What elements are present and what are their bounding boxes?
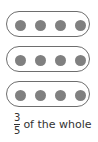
dot (15, 90, 26, 101)
dot (35, 20, 46, 31)
denominator: 5 (14, 126, 20, 136)
numerator: 3 (14, 113, 20, 123)
dot (55, 55, 66, 66)
dot (55, 20, 66, 31)
dot (75, 90, 86, 101)
fraction: 3 5 (14, 113, 20, 136)
dot (35, 55, 46, 66)
dot-group-3 (6, 81, 90, 107)
caption: 3 5 of the whole (14, 113, 92, 136)
dot-group-2 (6, 46, 90, 72)
dot (75, 20, 86, 31)
caption-text: of the whole (23, 118, 91, 131)
dot (35, 90, 46, 101)
dot (15, 55, 26, 66)
dot (75, 55, 86, 66)
dot (55, 90, 66, 101)
dot (15, 20, 26, 31)
dot-group-1 (6, 11, 90, 37)
